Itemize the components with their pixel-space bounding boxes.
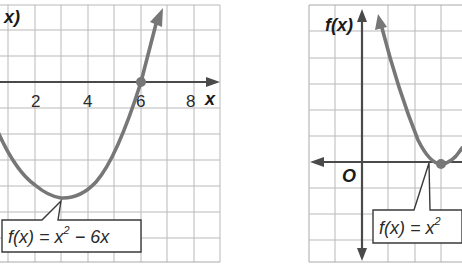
left-graph: x) x 2 4 6 8 f(x) = x2 − 6x — [0, 5, 220, 262]
right-y-axis-label: f(x) — [325, 15, 353, 35]
right-x-axis-arrow-icon — [310, 157, 324, 167]
right-curve-arrow-icon — [375, 14, 387, 30]
left-y-axis-label: x) — [3, 7, 20, 27]
right-origin-label: O — [342, 166, 356, 186]
right-y-axis-up-arrow-icon — [357, 9, 367, 22]
right-vertex-point — [436, 159, 446, 169]
left-curve-arrow-icon — [150, 8, 163, 27]
left-x-axis-label: x — [204, 89, 216, 109]
right-graph: f(x) O f(x) = x2 — [309, 5, 462, 262]
left-equation-rest: − 6x — [70, 227, 111, 247]
chart-canvas: x) x 2 4 6 8 f(x) = x2 − 6x — [0, 0, 462, 274]
left-tick-8: 8 — [186, 92, 195, 111]
left-parabola-curve — [0, 20, 157, 198]
right-equation-exponent: 2 — [434, 215, 441, 227]
svg-text:f(x) = x2: f(x) = x2 — [379, 215, 441, 238]
left-equation-exponent: 2 — [63, 224, 70, 236]
left-equation-callout: f(x) = x2 − 6x — [2, 201, 141, 252]
right-equation-text: f(x) = x — [379, 218, 436, 238]
right-parabola-curve — [382, 28, 462, 164]
left-x-axis-arrow-icon — [206, 77, 220, 87]
left-tick-2: 2 — [31, 92, 40, 111]
left-tick-4: 4 — [83, 92, 92, 111]
left-equation-text: f(x) = x — [8, 227, 65, 247]
right-y-axis-down-arrow-icon — [357, 248, 367, 261]
svg-text:f(x) = x2 − 6x: f(x) = x2 − 6x — [8, 224, 110, 247]
left-root-point — [136, 77, 146, 87]
right-equation-callout: f(x) = x2 — [373, 163, 462, 243]
